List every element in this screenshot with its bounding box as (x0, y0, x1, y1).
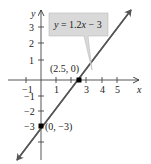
x-tick-4: 4 (100, 84, 105, 95)
point-y-intercept (39, 124, 44, 129)
graph-canvas: −1 1 3 4 5 x y 3 2 1 −1 −2 −3 y = 1.2x −… (0, 0, 151, 164)
y-tick-minus2: −2 (24, 106, 35, 117)
point-x-intercept (77, 78, 82, 83)
point-y-intercept-label: (0, −3) (45, 121, 72, 133)
y-axis-label: y (30, 8, 36, 19)
y-tick-2: 2 (29, 38, 34, 49)
x-tick-5: 5 (115, 84, 120, 95)
y-tick-1: 1 (29, 55, 34, 66)
x-tick-1: 1 (54, 84, 59, 95)
y-tick-3: 3 (29, 22, 34, 33)
equation-label: y = 1.2x − 3 (53, 19, 102, 30)
y-tick-minus3: −3 (24, 121, 35, 132)
point-x-intercept-label: (2.5, 0) (50, 63, 79, 75)
x-tick-3: 3 (84, 84, 89, 95)
y-tick-minus1: −1 (24, 91, 35, 102)
equation-callout: y = 1.2x − 3 (49, 13, 108, 70)
x-axis-label: x (136, 84, 142, 95)
